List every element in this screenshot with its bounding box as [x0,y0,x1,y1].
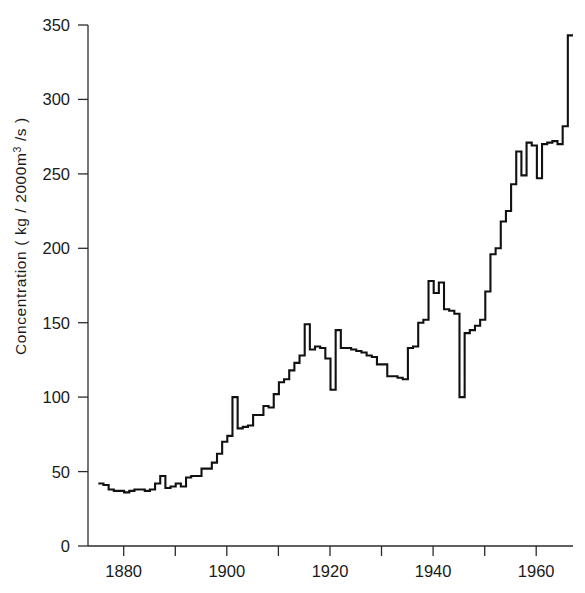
chart-figure: Concentration ( kg / 2000m3 /s ) 350 300… [0,0,585,593]
y-axis-title-before: Concentration ( kg / 2000m [12,152,29,355]
y-tick-label-250: 250 [42,165,70,183]
concentration-step-chart: Concentration ( kg / 2000m3 /s ) 350 300… [0,0,585,593]
x-tick-label-1960: 1960 [518,562,555,580]
y-tick-label-350: 350 [42,16,70,34]
x-axis: 1880 1900 1920 1940 1960 [88,546,573,580]
x-tick-label-1940: 1940 [415,562,452,580]
x-tick-label-1880: 1880 [105,562,142,580]
concentration-series-line [98,35,573,492]
y-tick-label-100: 100 [42,388,70,406]
y-axis-title-group: Concentration ( kg / 2000m3 /s ) [11,117,29,355]
y-tick-label-0: 0 [61,537,70,555]
y-axis: 350 300 250 200 150 100 50 0 [42,16,88,555]
y-tick-label-50: 50 [52,463,70,481]
y-axis-title-after: /s ) [12,117,29,146]
y-tick-label-200: 200 [42,239,70,257]
x-tick-label-1900: 1900 [208,562,245,580]
y-axis-title: Concentration ( kg / 2000m3 /s ) [11,117,29,355]
y-tick-label-150: 150 [42,314,70,332]
plot-area [98,35,573,492]
y-tick-label-300: 300 [42,90,70,108]
x-tick-label-1920: 1920 [312,562,349,580]
